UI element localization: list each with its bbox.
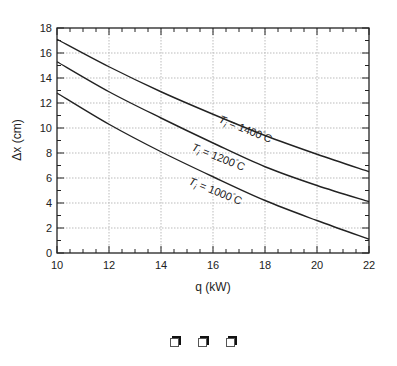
x-tick-label: 12: [103, 259, 115, 271]
x-axis-title: q (kW): [195, 280, 230, 294]
y-tick-label: 16: [40, 47, 52, 59]
y-tick-label: 6: [46, 172, 52, 184]
curve-labels: Ti = 1400°CTi = 1200°CTi = 1000°C: [186, 113, 274, 210]
svg-text:Ti = 1000°C: Ti = 1000°C: [186, 175, 244, 210]
y-axis-title: Δx (cm): [10, 119, 24, 160]
x-tick-label: 16: [207, 259, 219, 271]
grid-lines: [57, 28, 369, 253]
x-tick-label: 20: [311, 259, 323, 271]
curve-label: Ti = 1000°C: [186, 175, 244, 210]
x-tick-label: 14: [155, 259, 167, 271]
y-tick-label: 4: [46, 197, 52, 209]
line-chart: 10121416182022024681012141618 q (kW) Δx …: [0, 0, 397, 330]
y-tick-label: 14: [40, 72, 52, 84]
curve-label: Ti = 1400°C: [216, 113, 274, 148]
y-tick-label: 18: [40, 22, 52, 34]
window-icon[interactable]: [226, 336, 236, 346]
x-tick-label: 22: [363, 259, 375, 271]
footer-icons: [170, 336, 236, 346]
window-icon[interactable]: [170, 336, 180, 346]
svg-text:Ti = 1400°C: Ti = 1400°C: [216, 113, 274, 148]
y-tick-label: 10: [40, 122, 52, 134]
y-tick-label: 0: [46, 247, 52, 259]
y-tick-label: 8: [46, 147, 52, 159]
window-icon[interactable]: [198, 336, 208, 346]
y-tick-label: 12: [40, 97, 52, 109]
x-tick-label: 18: [259, 259, 271, 271]
x-tick-label: 10: [51, 259, 63, 271]
y-tick-label: 2: [46, 222, 52, 234]
